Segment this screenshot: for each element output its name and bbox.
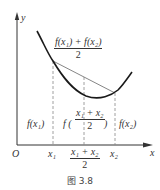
label-f-x2: f(x₂) bbox=[119, 119, 136, 129]
label-f-mid-numerator: x₁ + x₂ bbox=[75, 108, 105, 120]
tick-midpoint-fraction: x₁ + x₂ 2 bbox=[70, 147, 100, 170]
chord-midpoint-denominator: 2 bbox=[76, 49, 81, 60]
x-axis-label: x bbox=[150, 148, 154, 158]
label-f-x1: f(x₁) bbox=[27, 119, 44, 129]
label-f-mid-fraction: x₁ + x₂ 2 bbox=[75, 108, 105, 131]
label-f-mid-denominator: 2 bbox=[87, 120, 92, 131]
tick-x1: x₁ bbox=[48, 149, 56, 159]
figure-caption: 图 3.8 bbox=[0, 174, 160, 187]
origin-label: O bbox=[12, 149, 19, 159]
y-axis-label: y bbox=[21, 13, 25, 23]
tick-x2: x₂ bbox=[110, 149, 118, 159]
label-f-mid-suffix: ) bbox=[104, 119, 107, 129]
tick-midpoint-denominator: 2 bbox=[82, 159, 87, 170]
label-f-mid-prefix: f ( bbox=[63, 119, 72, 129]
tick-midpoint-numerator: x₁ + x₂ bbox=[70, 147, 100, 159]
y-axis-arrow-icon bbox=[15, 12, 19, 20]
chord-midpoint-numerator: f(x₁) + f(x₂) bbox=[54, 37, 102, 49]
chord-midpoint-fraction: f(x₁) + f(x₂) 2 bbox=[54, 37, 102, 60]
